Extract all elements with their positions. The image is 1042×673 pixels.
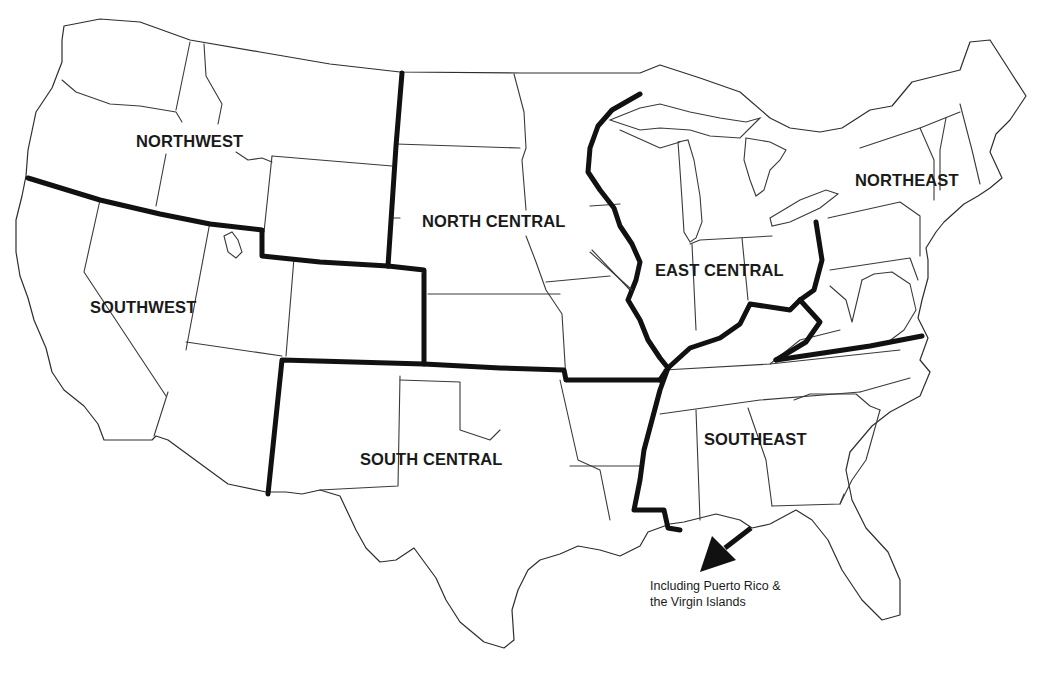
region-label-southeast: SOUTHEAST: [704, 430, 807, 449]
region-label-east-central: EAST CENTRAL: [655, 261, 784, 280]
region-label-northwest: NORTHWEST: [136, 132, 243, 151]
puerto-rico-note: Including Puerto Rico & the Virgin Islan…: [650, 578, 781, 610]
region-label-northeast: NORTHEAST: [855, 171, 959, 190]
region-label-north-central: NORTH CENTRAL: [422, 212, 565, 231]
puerto-rico-note-line1: Including Puerto Rico &: [650, 578, 781, 594]
region-label-southwest: SOUTHWEST: [90, 298, 196, 317]
us-outline: [16, 19, 1026, 648]
region-label-south-central: SOUTH CENTRAL: [360, 450, 502, 469]
puerto-rico-note-line2: the Virgin Islands: [650, 594, 781, 610]
us-regions-map: [0, 0, 1042, 673]
arrow-down-left-icon: [700, 528, 751, 572]
